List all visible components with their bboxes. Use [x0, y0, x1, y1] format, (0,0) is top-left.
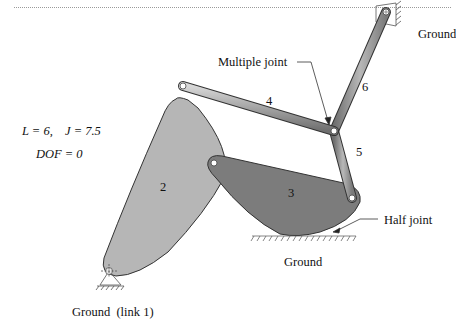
link-number-3: 3 [288, 187, 294, 200]
link-6 [334, 12, 386, 131]
link-number-5: 5 [356, 146, 362, 159]
equation-L: L = 6, [22, 125, 53, 138]
label-ground-bottom: Ground [284, 256, 322, 269]
leader-multiple-joint [297, 62, 331, 125]
ground-hatch-half-joint [251, 236, 356, 241]
link-number-6: 6 [362, 81, 368, 94]
link-3 [208, 156, 361, 236]
equation-J: J = 7.5 [65, 125, 101, 138]
label-ground-top-right: Ground [418, 28, 456, 41]
label-half-joint: Half joint [384, 214, 432, 227]
link-number-4: 4 [266, 95, 272, 108]
link-number-2: 2 [160, 181, 166, 194]
label-multiple-joint: Multiple joint [218, 56, 287, 69]
label-ground-link1: Ground (link 1) [72, 306, 154, 319]
equation-DOF: DOF = 0 [36, 148, 83, 161]
